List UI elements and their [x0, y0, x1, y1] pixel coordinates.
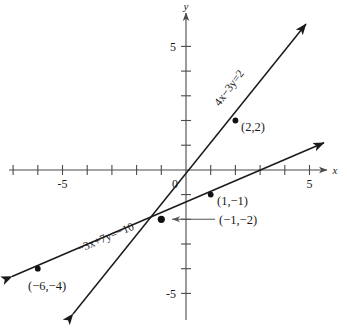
equation-label-steep: 4x−3y=2 [211, 67, 247, 108]
point-label-2-2: (2,2) [241, 120, 265, 134]
point-label-m1-m2: (−1,−2) [219, 213, 257, 227]
line-shallow-neg3x-plus-7y [12, 143, 324, 277]
y-axis [181, 13, 191, 320]
point-label-1-m1: (1,−1) [217, 194, 248, 208]
x-tick-label-5: 5 [307, 177, 313, 191]
x-axis [9, 165, 327, 175]
x-tick-label-neg5: -5 [58, 177, 68, 191]
equation-label-shallow: −3x+7y=−10 [75, 220, 136, 256]
x-axis-label: x [332, 164, 338, 176]
coordinate-graph-figure: -5 5 5 -5 0 x y 4x−3y=2 −3x+7y=−10 (2,2)… [0, 0, 347, 328]
point-dot-1-m1 [208, 192, 214, 198]
point-dot-m1-m2 [158, 216, 165, 223]
y-axis-label: y [183, 0, 189, 12]
y-tick-label-neg5: -5 [166, 287, 176, 301]
line-steep-4x-minus-3y [73, 24, 306, 314]
point-label-m6-m4: (−6,−4) [28, 279, 66, 293]
y-tick-label-5: 5 [170, 40, 176, 54]
point-dot-m6-m4 [35, 266, 41, 272]
graph-canvas: -5 5 5 -5 0 x y 4x−3y=2 −3x+7y=−10 (2,2)… [0, 0, 347, 328]
origin-label: 0 [172, 177, 178, 191]
point-dot-2-2 [233, 118, 239, 124]
